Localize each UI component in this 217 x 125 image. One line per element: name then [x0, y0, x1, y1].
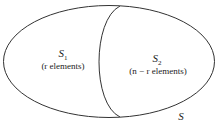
- region-s1-description: (r elements): [25, 61, 101, 71]
- set-partition-diagram: S1 (r elements) S2 (n − r elements) S: [0, 0, 217, 125]
- partition-curve: [99, 6, 120, 117]
- region-s1-label: S1: [48, 47, 78, 62]
- universe-label: S: [175, 110, 187, 122]
- region-s2-description: (n − r elements): [115, 66, 201, 76]
- region-s2-label: S2: [142, 52, 172, 67]
